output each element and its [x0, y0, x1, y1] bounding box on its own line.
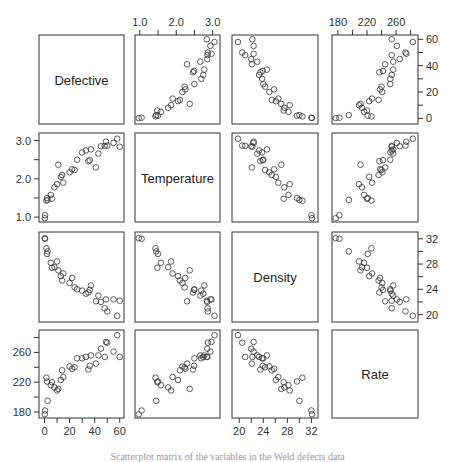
data-point	[282, 185, 288, 191]
data-point	[365, 251, 371, 257]
data-point	[235, 332, 241, 338]
tick-label: 180	[329, 16, 347, 28]
data-point	[404, 139, 410, 145]
data-point	[390, 283, 396, 289]
data-point	[48, 192, 54, 198]
data-point	[287, 102, 293, 108]
data-point	[369, 180, 375, 186]
data-point	[377, 158, 383, 164]
data-point	[249, 165, 255, 171]
data-point	[239, 340, 245, 346]
data-point	[192, 356, 198, 362]
data-point	[300, 375, 306, 381]
panel-temperature-vs-defective	[39, 133, 124, 222]
data-point	[380, 157, 386, 163]
data-point	[45, 398, 51, 404]
data-point	[54, 259, 60, 265]
data-point	[235, 136, 241, 142]
data-point	[281, 379, 287, 385]
data-point	[388, 81, 394, 87]
data-point	[346, 112, 352, 118]
data-point	[287, 388, 293, 394]
tick-label: 28	[281, 425, 293, 437]
data-point	[250, 37, 256, 43]
tick-label: 0	[41, 425, 47, 437]
data-point	[153, 398, 159, 404]
data-point	[212, 313, 218, 319]
data-point	[356, 259, 362, 265]
data-point	[390, 67, 396, 73]
data-point	[96, 353, 102, 359]
data-point	[376, 97, 382, 103]
data-point	[212, 332, 218, 338]
data-point	[202, 283, 208, 289]
panel-defective-vs-density	[232, 35, 318, 124]
data-point	[183, 275, 189, 281]
figure-caption: Scatterplot matrix of the variables in t…	[0, 451, 455, 462]
data-point	[410, 136, 416, 142]
variable-label: Temperature	[141, 171, 214, 186]
data-point	[410, 313, 416, 319]
data-point	[397, 56, 403, 62]
data-point	[377, 70, 383, 76]
panel-rate-vs-defective	[39, 330, 124, 418]
tick-label: 1.0	[16, 211, 31, 223]
data-point	[394, 43, 400, 49]
data-point	[254, 59, 260, 65]
data-point	[170, 271, 176, 277]
data-point	[155, 265, 161, 271]
data-point	[297, 398, 303, 404]
data-point	[389, 298, 395, 304]
tick-label: 20	[233, 425, 245, 437]
data-point	[389, 72, 395, 78]
data-point	[202, 67, 208, 73]
variable-label: Defective	[54, 73, 108, 88]
tick-label: 3.0	[205, 16, 220, 28]
data-point	[111, 349, 117, 355]
variable-label: Density	[253, 270, 297, 285]
data-point	[281, 196, 287, 202]
tick-label: 220	[13, 376, 31, 388]
data-point	[184, 62, 190, 68]
data-point	[42, 408, 48, 414]
tick-label: 40	[89, 425, 101, 437]
data-point	[114, 313, 120, 319]
tick-label: 260	[13, 346, 31, 358]
tick-label: 28	[426, 258, 438, 270]
data-point	[250, 354, 256, 360]
data-point	[139, 408, 145, 414]
data-point	[366, 174, 372, 180]
data-point	[191, 68, 197, 74]
tick-label: 20	[63, 425, 75, 437]
data-point	[187, 101, 193, 107]
data-point	[117, 354, 123, 360]
data-point	[251, 51, 257, 57]
data-point	[337, 236, 343, 242]
tick-label: 24	[257, 425, 269, 437]
data-point	[209, 339, 215, 345]
data-point	[271, 167, 277, 173]
data-point	[96, 151, 102, 157]
data-point	[191, 363, 197, 369]
data-point	[168, 259, 174, 265]
data-point	[170, 374, 176, 380]
tick-label: 2.0	[16, 173, 31, 185]
data-point	[394, 140, 400, 146]
data-point	[58, 174, 64, 180]
data-point	[271, 87, 277, 93]
data-point	[175, 377, 181, 383]
data-point	[251, 43, 257, 49]
data-point	[264, 147, 270, 153]
data-point	[294, 379, 300, 385]
data-point	[190, 367, 196, 373]
data-point	[259, 76, 265, 82]
data-point	[249, 361, 255, 367]
data-point	[403, 143, 409, 149]
data-point	[403, 309, 409, 315]
tick-label: 32	[305, 425, 317, 437]
panel-defective-vs-rate	[332, 35, 418, 124]
data-point	[69, 275, 75, 281]
data-point	[242, 354, 248, 360]
data-point	[389, 306, 395, 312]
data-point	[389, 37, 395, 43]
